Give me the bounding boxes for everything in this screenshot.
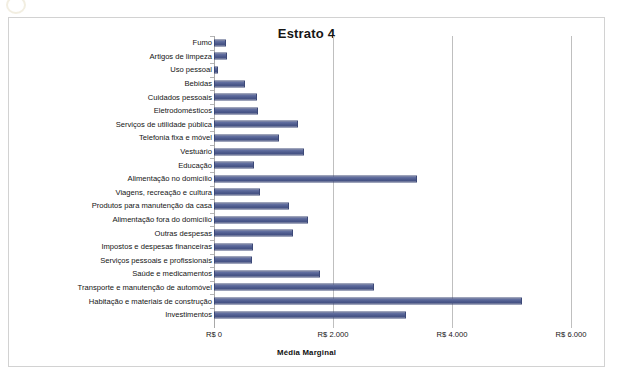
bar [214, 243, 253, 250]
plot-area: FumoArtigos de limpezaUso pessoalBebidas… [9, 36, 604, 328]
bar-track [214, 39, 226, 46]
bar-track [214, 270, 320, 277]
bar-row: Alimentação no domicílio [9, 172, 604, 186]
bar-row: Uso pessoal [9, 63, 604, 77]
category-tick [210, 104, 214, 105]
tick-label-6000: R$ 6.000 [556, 330, 587, 339]
bar-track [214, 107, 258, 114]
category-label: Alimentação no domicílio [2, 174, 212, 183]
bar-row: Investimentos [9, 308, 604, 322]
category-label: Habitação e materiais de construção [2, 297, 212, 306]
bar-row: Bebidas [9, 77, 604, 91]
bar-row: Produtos para manutenção da casa [9, 199, 604, 213]
bar-track [214, 53, 227, 60]
category-label: Vestuário [2, 147, 212, 156]
bar [214, 175, 417, 182]
category-tick [210, 281, 214, 282]
bar-row: Viagens, recreação e cultura [9, 186, 604, 200]
bar [214, 134, 279, 141]
bar [214, 107, 258, 114]
category-tick [210, 63, 214, 64]
bar-track [214, 175, 417, 182]
bar [214, 202, 289, 209]
bar-track [214, 80, 245, 87]
x-axis-title: Média Marginal [9, 348, 604, 357]
bar [214, 230, 293, 237]
bar-track [214, 121, 298, 128]
bar-track [214, 311, 406, 318]
category-label: Serviços de utilidade pública [2, 120, 212, 129]
bar-track [214, 148, 304, 155]
category-tick [210, 50, 214, 51]
category-label: Uso pessoal [2, 65, 212, 74]
category-label: Artigos de limpeza [2, 52, 212, 61]
bar-row: Saúde e medicamentos [9, 267, 604, 281]
category-tick [210, 267, 214, 268]
x-axis-tick-labels: R$ 0R$ 2.000R$ 4.000R$ 6.000 [9, 330, 604, 344]
bar [214, 257, 252, 264]
bar-track [214, 162, 254, 169]
tick-label-0: R$ 0 [206, 330, 222, 339]
bar-track [214, 94, 257, 101]
category-tick [210, 158, 214, 159]
bar-track [214, 202, 289, 209]
bar-series: FumoArtigos de limpezaUso pessoalBebidas… [9, 36, 604, 328]
bar [214, 80, 245, 87]
bar-row: Transporte e manutenção de automóvel [9, 281, 604, 295]
category-label: Bebidas [2, 79, 212, 88]
bar [214, 66, 218, 73]
category-label: Educação [2, 161, 212, 170]
category-label: Outras despesas [2, 229, 212, 238]
bar-row: Cuidados pessoais [9, 90, 604, 104]
bar-row: Telefonia fixa e móvel [9, 131, 604, 145]
bar-row: Habitação e materiais de construção [9, 294, 604, 308]
category-tick [210, 240, 214, 241]
category-label: Telefonia fixa e móvel [2, 133, 212, 142]
bar-row: Fumo [9, 36, 604, 50]
tick-label-2000: R$ 2.000 [318, 330, 349, 339]
scan-artifact [6, 0, 26, 14]
category-tick [210, 199, 214, 200]
category-label: Viagens, recreação e cultura [2, 188, 212, 197]
category-label: Impostos e despesas financeiras [2, 242, 212, 251]
category-tick [210, 77, 214, 78]
category-label: Cuidados pessoais [2, 93, 212, 102]
category-tick [210, 294, 214, 295]
category-tick [210, 131, 214, 132]
bar-row: Educação [9, 158, 604, 172]
bar [214, 148, 304, 155]
bar [214, 53, 227, 60]
category-label: Fumo [2, 38, 212, 47]
category-tick [210, 145, 214, 146]
category-label: Investimentos [2, 310, 212, 319]
bar [214, 298, 522, 305]
bar-row: Artigos de limpeza [9, 50, 604, 64]
bar-track [214, 216, 308, 223]
category-label: Eletrodomésticos [2, 106, 212, 115]
bar-row: Alimentação fora do domicílio [9, 213, 604, 227]
category-tick [210, 254, 214, 255]
bar-track [214, 284, 374, 291]
category-tick [210, 172, 214, 173]
bar-track [214, 66, 218, 73]
bar-track [214, 134, 279, 141]
category-tick [210, 213, 214, 214]
bar [214, 121, 298, 128]
category-tick [210, 90, 214, 91]
category-tick [210, 118, 214, 119]
bar [214, 189, 260, 196]
category-label: Produtos para manutenção da casa [2, 201, 212, 210]
category-tick [210, 186, 214, 187]
bar-track [214, 189, 260, 196]
category-label: Alimentação fora do domicílio [2, 215, 212, 224]
bar-track [214, 243, 253, 250]
bar [214, 270, 320, 277]
category-tick [210, 308, 214, 309]
bar [214, 94, 257, 101]
bar-row: Vestuário [9, 145, 604, 159]
tick-label-4000: R$ 4.000 [437, 330, 468, 339]
category-label: Serviços pessoais e profissionais [2, 256, 212, 265]
category-label: Saúde e medicamentos [2, 269, 212, 278]
bar [214, 162, 254, 169]
bar-row: Impostos e despesas financeiras [9, 240, 604, 254]
